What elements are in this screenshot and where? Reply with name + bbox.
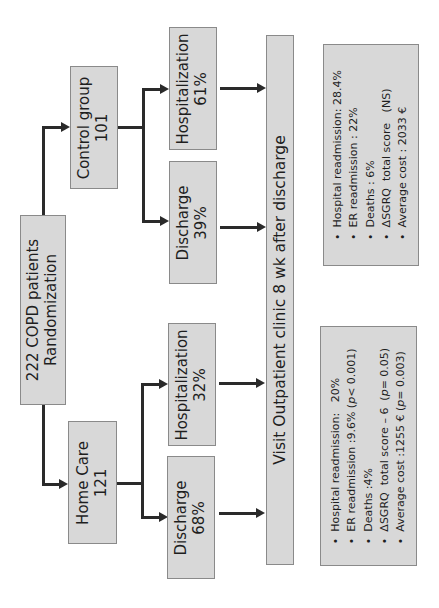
arrow-to-control-hosp-icon (160, 84, 169, 94)
root-connector-down-h (42, 483, 60, 486)
home-care-label: Home Care (75, 441, 93, 525)
control-group-text: Control group 101 (76, 76, 111, 179)
home-branch-stem (117, 482, 142, 485)
control-branch-vertical (142, 88, 145, 223)
arrow-line-control-hosp (220, 87, 258, 90)
root-connector-up (42, 126, 45, 215)
control-branch-bottom (142, 220, 162, 223)
arrow-to-control-icon (61, 122, 70, 132)
control-group-count: 101 (94, 76, 112, 179)
root-box: 222 COPD patients Randomization (20, 215, 66, 405)
control-branch-top (142, 88, 162, 91)
p-symbol: p (394, 400, 407, 407)
arrow-control-hosp-to-followup-icon (257, 83, 266, 93)
home-result-deaths: Deaths :4% (360, 348, 376, 544)
arrow-home-hosp-to-followup-icon (256, 378, 265, 388)
home-results-text: Hospital readmission: 20% ER readmission… (328, 348, 409, 544)
home-result-er-readmission: ER readmission :9.6% (p< 0.001) (344, 348, 360, 544)
home-result-sgrq-pvalue: = 0.05) (378, 348, 391, 390)
root-line1: 222 COPD patients (25, 239, 43, 381)
followup-box: Visit Outpatient clinic 8 wk after disch… (266, 35, 294, 565)
home-results-list: Hospital readmission: 20% ER readmission… (328, 348, 409, 544)
control-hospitalization-label: Hospitalization (175, 33, 193, 144)
control-branch-stem (118, 126, 143, 129)
followup-label: Visit Outpatient clinic 8 wk after disch… (271, 135, 289, 464)
home-care-text: Home Care 121 (75, 441, 110, 525)
control-result-deaths: Deaths : 6% (363, 70, 379, 240)
home-discharge-value: 68% (191, 480, 209, 555)
p-symbol: p (345, 397, 358, 404)
home-result-sgrq: ΔSGRQ total score – 6 (p= 0.05) (377, 348, 393, 544)
home-result-er-pvalue: < 0.001) (345, 348, 358, 397)
control-hospitalization-value: 61% (193, 33, 211, 144)
home-result-sgrq-text: ΔSGRQ total score – 6 ( (378, 396, 391, 531)
home-result-deaths-text: Deaths :4% (361, 468, 374, 532)
root-line2: Randomization (43, 239, 61, 381)
arrow-line-home-discharge (219, 512, 257, 515)
control-hospitalization-text: Hospitalization 61% (175, 33, 210, 144)
control-results-text: Hospital readmission: 28.4% ER readmissi… (330, 70, 411, 240)
home-branch-top (141, 383, 161, 386)
control-group-box: Control group 101 (70, 66, 118, 189)
home-hospitalization-box: Hospitalization 32% (168, 323, 216, 446)
control-discharge-value: 39% (193, 185, 211, 260)
arrow-line-control-discharge (220, 226, 258, 229)
control-discharge-text: Discharge 39% (175, 185, 210, 260)
arrow-control-discharge-to-followup-icon (257, 222, 266, 232)
control-result-hospital-readmission: Hospital readmission: 28.4% (330, 70, 346, 240)
arrow-home-discharge-to-followup-icon (256, 508, 265, 518)
home-discharge-text: Discharge 68% (173, 480, 208, 555)
arrow-line-home-hosp (219, 382, 257, 385)
home-branch-bottom (141, 516, 161, 519)
arrow-to-home-hosp-icon (159, 379, 168, 389)
control-results-list: Hospital readmission: 28.4% ER readmissi… (330, 70, 411, 240)
control-discharge-box: Discharge 39% (169, 161, 217, 284)
home-discharge-label: Discharge (173, 480, 191, 555)
home-hospitalization-text: Hospitalization 32% (174, 329, 209, 440)
control-discharge-label: Discharge (175, 185, 193, 260)
home-result-hospital-readmission: Hospital readmission: 20% (328, 348, 344, 544)
home-results-box: Hospital readmission: 20% ER readmission… (320, 326, 417, 566)
control-result-average-cost: Average cost : 2033 € (395, 70, 411, 240)
p-symbol: p (378, 389, 391, 396)
root-connector-down (42, 405, 45, 486)
control-result-sgrq: ΔSGRQ total score (NS) (379, 70, 395, 240)
root-connector-up-h (42, 126, 62, 129)
home-care-count: 121 (93, 441, 111, 525)
control-results-box: Hospital readmission: 28.4% ER readmissi… (323, 44, 419, 266)
home-result-cost-text: Average cost :1255 € ( (394, 407, 407, 532)
home-result-er-text: ER readmission :9.6% ( (345, 404, 358, 532)
home-hospitalization-value: 32% (192, 329, 210, 440)
home-hospitalization-label: Hospitalization (174, 329, 192, 440)
home-care-box: Home Care 121 (68, 421, 117, 544)
control-hospitalization-box: Hospitalization 61% (169, 27, 217, 150)
arrow-to-homecare-icon (59, 479, 68, 489)
home-result-average-cost: Average cost :1255 € (p= 0.003) (393, 348, 409, 544)
home-discharge-box: Discharge 68% (167, 456, 215, 579)
home-branch-vertical (141, 383, 144, 518)
control-result-er-readmission: ER readmission : 22% (347, 70, 363, 240)
home-result-cost-pvalue: = 0.003) (394, 351, 407, 400)
home-result-hospital-readmission-text: Hospital readmission: 20% (329, 378, 342, 532)
root-label: 222 COPD patients Randomization (25, 239, 60, 381)
arrow-to-control-discharge-icon (160, 216, 169, 226)
control-group-label: Control group (76, 76, 94, 179)
